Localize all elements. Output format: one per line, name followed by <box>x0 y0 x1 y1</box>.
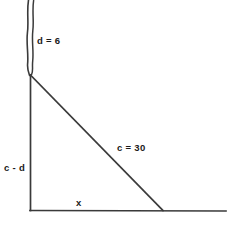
horizontal-leg-label: x <box>76 198 82 208</box>
vertical-leg-label: c - d <box>4 163 25 173</box>
break-line-left <box>27 0 30 76</box>
break-line-right <box>32 1 34 75</box>
diagram-drawing <box>0 0 235 232</box>
geometry-diagram: d = 6 c - d c = 30 x <box>0 0 235 232</box>
hypotenuse-label: c = 30 <box>117 143 145 153</box>
break-segment-label: d = 6 <box>37 36 60 46</box>
baseline-line <box>30 211 226 212</box>
